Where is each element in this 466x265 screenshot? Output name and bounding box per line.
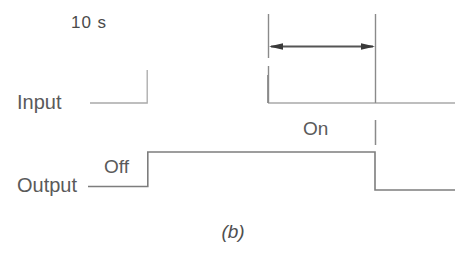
output-waveform xyxy=(88,152,455,190)
duration-arrow-head-right xyxy=(361,43,375,50)
duration-annotation-container: 10 s xyxy=(0,14,466,31)
duration-annotation-label: 10 s xyxy=(71,14,107,31)
output-signal-label: Output xyxy=(17,175,77,195)
output-off-state-label: Off xyxy=(104,157,129,176)
input-signal-label: Input xyxy=(17,92,61,112)
input-waveform-left-segment xyxy=(90,70,147,103)
output-on-state-label: On xyxy=(303,119,328,138)
duration-arrow-head-left xyxy=(269,43,283,50)
figure-caption: (b) xyxy=(0,222,466,241)
timing-diagram-figure: Input Output Off On 10 s (b) xyxy=(0,0,466,265)
